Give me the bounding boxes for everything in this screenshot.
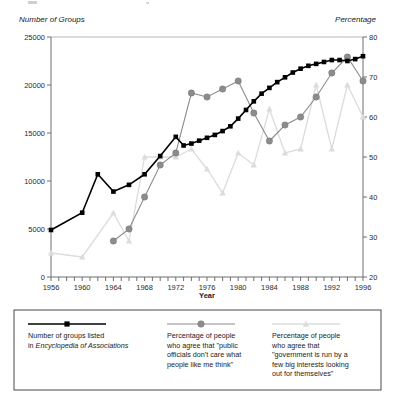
legend-label-line: in Encyclopedia of Associations [28,341,129,350]
legend-label-line: Percentage of people [167,331,235,340]
x-tick-label: 1960 [74,283,91,292]
data-point [228,124,233,129]
data-point [330,58,335,63]
data-point [291,70,296,75]
legend-label-line: out for themselves" [272,369,334,378]
data-point [80,210,85,215]
data-point [251,110,257,116]
data-point [322,60,327,65]
left-tick-label: 25000 [24,33,45,42]
data-point [173,150,179,156]
left-tick-label: 5000 [28,225,45,234]
legend-label-line: officials don't care what [167,350,241,359]
legend-label-line: who agree that "public [166,341,238,350]
data-point [282,122,288,128]
data-point [283,75,288,80]
left-axis-title: Number of Groups [19,15,85,24]
data-point [266,138,272,144]
data-point [110,238,116,244]
x-tick-label: 1996 [355,283,372,292]
data-point [361,54,366,59]
x-tick-label: 1992 [323,283,340,292]
data-point [142,172,147,177]
data-point [174,135,179,140]
x-tick-label: 1972 [167,283,184,292]
data-point [314,62,319,67]
left-tick-label: 20000 [24,81,45,90]
data-point [235,78,241,84]
x-axis-title: Year [199,291,215,300]
data-point [189,141,194,146]
data-point [205,136,210,141]
data-point [313,94,319,100]
black-square-marker [64,321,69,326]
right-tick-label: 60 [369,113,377,122]
x-tick-label: 1984 [261,283,278,292]
data-point [141,194,147,200]
left-tick-label: 0 [41,273,45,282]
data-point [181,143,186,148]
data-point [329,70,335,76]
right-axis-title: Percentage [335,15,376,24]
data-point [157,162,163,168]
right-tick-label: 80 [369,33,377,42]
data-point [220,129,225,134]
data-point [353,57,358,62]
x-tick-label: 1988 [292,283,309,292]
data-point [236,116,241,121]
legend-label-line: people like me think" [167,360,234,369]
data-point [127,183,132,188]
legend-label-line: "government is run by a [272,350,348,359]
data-point [306,64,311,69]
right-tick-label: 70 [369,73,377,82]
legend-label-line: Number of groups listed [28,331,104,340]
data-point [275,80,280,85]
x-tick-label: 1980 [230,283,247,292]
data-point [259,91,264,96]
data-point [244,108,249,113]
data-point [219,86,225,92]
data-point [360,78,366,84]
x-tick-label: 1968 [136,283,153,292]
data-point [158,154,163,159]
data-point [204,94,210,100]
left-tick-label: 15000 [24,129,45,138]
data-point [197,138,202,143]
data-point [298,66,303,71]
data-point [126,226,132,232]
x-tick-label: 1956 [43,283,60,292]
x-tick-label: 1964 [105,283,122,292]
right-tick-label: 20 [369,273,377,282]
legend-label-line: few big interests looking [272,360,349,369]
data-point [96,172,101,177]
data-point [252,99,257,104]
right-tick-label: 40 [369,193,377,202]
data-point [188,90,194,96]
right-tick-label: 30 [369,233,377,242]
data-point [213,133,218,138]
data-point [345,59,350,64]
data-point [49,228,54,233]
chart-figure: Number of Groups Percentage 050001000015… [0,0,395,397]
data-point [267,86,272,91]
data-point [337,58,342,63]
right-tick-label: 50 [369,153,377,162]
legend-label-line: who agree that [271,341,320,350]
data-point [111,189,116,194]
gray-circle-marker [198,321,205,328]
data-point [297,114,303,120]
legend-label-line: Percentage of people [272,331,340,340]
left-tick-label: 10000 [24,177,45,186]
